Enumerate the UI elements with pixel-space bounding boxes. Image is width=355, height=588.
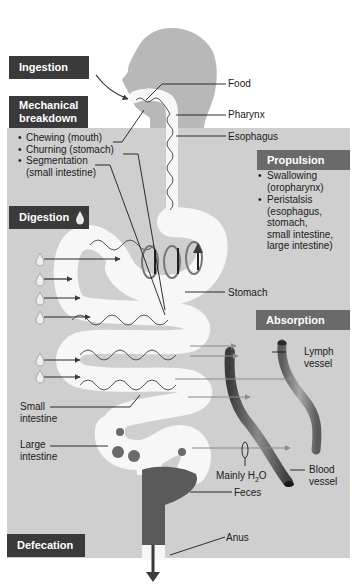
bullet-icon: • [258,194,267,252]
propulsion-text: (esophagus, [267,206,333,218]
feces-label: Feces [234,487,261,499]
absorption-header-label: Absorption [266,314,325,327]
enzyme-drops [0,0,355,588]
large-int-line2: intestine [20,451,57,463]
absorption-header: Absorption [256,310,350,330]
propulsion-header: Propulsion [257,150,350,170]
propulsion-item: • Swallowing (oropharynx) [258,170,350,193]
small-intestine-label: Small intestine [20,401,57,425]
mechanical-item: • Segmentation (small intestine) [18,155,114,178]
small-int-line2: intestine [20,413,57,425]
propulsion-header-label: Propulsion [267,154,324,167]
digestion-header: Digestion [9,206,89,229]
stomach-label: Stomach [228,287,267,299]
mechanical-item: • Churning (stomach) [18,144,114,156]
propulsion-text: large intestine) [267,240,333,252]
mechanical-item: • Chewing (mouth) [18,132,114,144]
mainly-water-label: Mainly H2O [216,470,267,486]
drop-icon [75,211,85,225]
bullet-icon: • [18,155,26,178]
mainly-suffix: O [259,470,267,481]
propulsion-item: • Peristalsis (esophagus, stomach, small… [258,194,350,252]
lymph-line2: vessel [304,358,334,370]
small-int-line1: Small [20,401,57,413]
ingestion-header-label: Ingestion [19,61,68,74]
propulsion-text: stomach, [267,217,333,229]
blood-vessel-label: Blood vessel [309,464,337,488]
mechanical-item-subtext: (small intestine) [26,167,96,179]
mechanical-breakdown-header: Mechanical breakdown [9,96,88,128]
food-label: Food [228,78,251,90]
defecation-header-label: Defecation [17,539,73,552]
defecation-header: Defecation [7,534,85,557]
mechanical-header-line2: breakdown [19,112,77,125]
mechanical-item-text: Chewing (mouth) [26,132,102,144]
mainly-prefix: Mainly H [216,470,255,481]
blood-line2: vessel [309,476,337,488]
blood-line1: Blood [309,464,337,476]
esophagus-label: Esophagus [228,131,278,143]
digestive-diagram: Ingestion Mechanical breakdown Digestion… [0,0,355,588]
large-intestine-label: Large intestine [20,439,57,463]
mechanical-item-text: Segmentation [26,155,96,167]
digestion-header-label: Digestion [19,211,69,224]
bullet-icon: • [258,170,267,193]
mechanical-item-text: Churning (stomach) [26,144,114,156]
anus-label: Anus [226,532,249,544]
propulsion-text: (oropharynx) [267,182,324,194]
mechanical-list: • Chewing (mouth) • Churning (stomach) •… [18,132,114,178]
large-int-line1: Large [20,439,57,451]
pharynx-label: Pharynx [228,109,265,121]
propulsion-list: • Swallowing (oropharynx) • Peristalsis … [258,170,350,253]
mechanical-header-line1: Mechanical [19,99,78,112]
propulsion-text: small intestine, [267,229,333,241]
bullet-icon: • [18,132,26,144]
lymph-line1: Lymph [304,346,334,358]
bullet-icon: • [18,144,26,156]
lymph-vessel-label: Lymph vessel [304,346,334,370]
propulsion-text: Peristalsis [267,194,333,206]
propulsion-text: Swallowing [267,170,324,182]
ingestion-header: Ingestion [9,56,89,79]
